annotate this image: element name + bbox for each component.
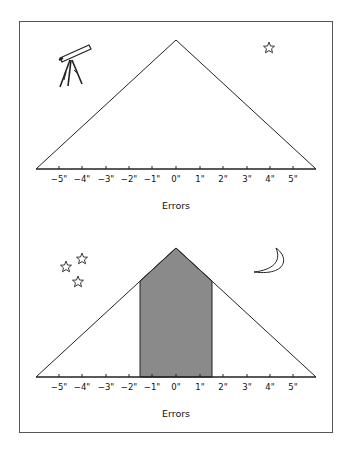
- x-axis-title: Errors: [162, 200, 190, 211]
- x-axis-tick-labels: −5" −4" −3" −2" −1" 0" 1" 2" 3" 4" 5": [51, 174, 298, 184]
- tick-label: −1": [144, 382, 161, 392]
- tick-label: 3": [242, 174, 251, 184]
- tick-label: 3": [242, 382, 251, 392]
- diagram-canvas: −5" −4" −3" −2" −1" 0" 1" 2" 3" 4" 5" Er…: [0, 0, 352, 450]
- tick-label: 4": [265, 174, 274, 184]
- x-axis-title: Errors: [162, 408, 190, 419]
- tick-label: 1": [195, 382, 204, 392]
- star-icon: [73, 276, 84, 287]
- telescope-icon: [59, 45, 91, 87]
- star-icon: [61, 261, 72, 272]
- tick-label: −3": [98, 174, 115, 184]
- tick-label: −1": [144, 174, 161, 184]
- tick-label: −2": [121, 382, 138, 392]
- star-icon: [77, 253, 88, 264]
- tick-label: 2": [218, 382, 227, 392]
- shaded-region: [140, 248, 212, 377]
- tick-label: −3": [98, 382, 115, 392]
- tick-label: 5": [288, 174, 297, 184]
- tick-label: 5": [288, 382, 297, 392]
- bottom-panel: −5" −4" −3" −2" −1" 0" 1" 2" 3" 4" 5" Er…: [36, 248, 316, 419]
- tick-label: 0": [171, 174, 180, 184]
- top-panel: −5" −4" −3" −2" −1" 0" 1" 2" 3" 4" 5" Er…: [36, 40, 316, 211]
- tick-label: 4": [265, 382, 274, 392]
- tick-label: −4": [74, 174, 91, 184]
- distribution-curve: [36, 40, 316, 169]
- tick-label: −5": [51, 174, 68, 184]
- tick-label: 0": [171, 382, 180, 392]
- moon-icon: [254, 248, 284, 273]
- tick-label: −2": [121, 174, 138, 184]
- star-icon: [264, 42, 275, 53]
- tick-label: −5": [51, 382, 68, 392]
- tick-label: 1": [195, 174, 204, 184]
- tick-label: −4": [74, 382, 91, 392]
- tick-label: 2": [218, 174, 227, 184]
- x-axis-tick-labels: −5" −4" −3" −2" −1" 0" 1" 2" 3" 4" 5": [51, 382, 298, 392]
